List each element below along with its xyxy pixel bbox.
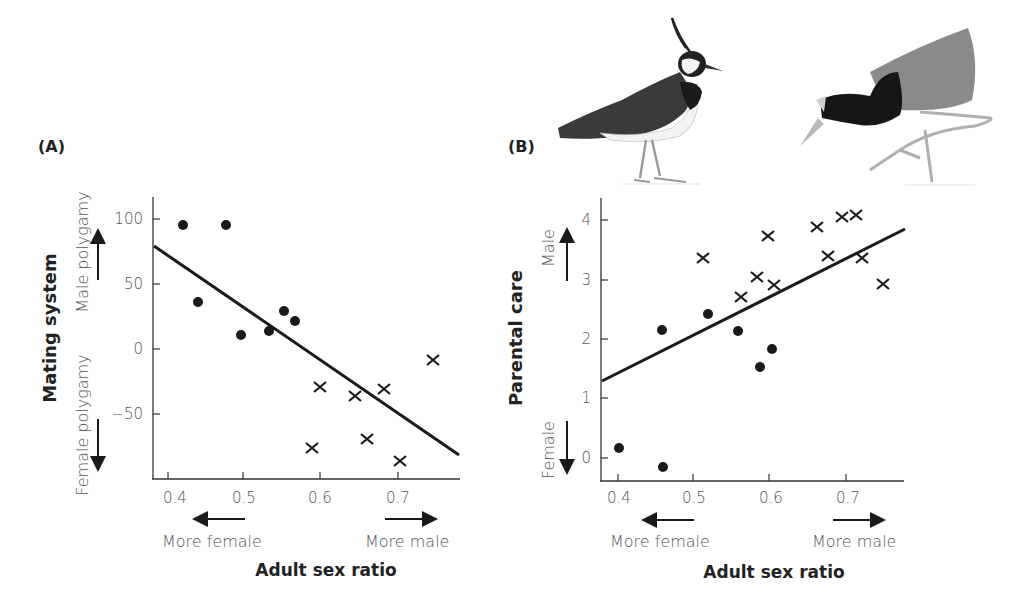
panel-b-x-left-label: More female <box>610 532 710 551</box>
panel-b-xtick: 0.6 <box>759 489 783 507</box>
panel-b-xtick: 0.7 <box>836 489 860 507</box>
panel-b-ytick: 1 <box>581 389 591 407</box>
panel-b-xtick: 0.4 <box>607 489 631 507</box>
panel-b-ylabel: Parental care <box>505 270 526 406</box>
panel-b-ytick: 4 <box>581 211 591 229</box>
figure: (A) 100 50 0 −50 0.4 0.5 0.6 0.7 <box>0 0 1021 609</box>
panel-b-ytick: 3 <box>581 271 591 289</box>
panel-a-y-down-label: Female polygamy <box>73 354 92 495</box>
panel-a-ylabel: Mating system <box>39 253 60 403</box>
panel-a-dots <box>178 220 300 340</box>
panel-a-xtick: 0.7 <box>386 489 410 507</box>
panel-a-ytick: 50 <box>124 275 143 293</box>
panel-a-fit-line <box>154 246 459 455</box>
panel-b-crosses <box>697 210 889 302</box>
panel-a-y-up-label: Male polygamy <box>73 191 92 312</box>
panel-a-ytick: 100 <box>114 210 143 228</box>
panel-b-y-up-label: Male <box>539 229 558 267</box>
panel-b-xlabel: Adult sex ratio <box>703 562 844 582</box>
panel-a-ytick: 0 <box>133 340 143 358</box>
panel-b-ytick: 2 <box>581 330 591 348</box>
panel-b-fit-line <box>602 229 905 381</box>
panel-a-xtick: 0.4 <box>163 489 187 507</box>
panel-b-y-down-label: Female <box>539 421 558 479</box>
jacana-illustration <box>800 28 991 185</box>
panel-a-xlabel: Adult sex ratio <box>255 560 396 580</box>
panel-a-xtick: 0.6 <box>308 489 332 507</box>
lapwing-illustration <box>558 18 723 184</box>
panel-a-x-right-label: More male <box>365 532 449 551</box>
panel-b-ytick: 0 <box>581 449 591 467</box>
panel-b-x-right-label: More male <box>812 532 896 551</box>
panel-b-label: (B) <box>508 137 535 156</box>
panel-b-xtick: 0.5 <box>682 489 706 507</box>
panel-a-crosses <box>306 355 439 466</box>
panel-a-label: (A) <box>38 137 65 156</box>
panel-a-xtick: 0.5 <box>232 489 256 507</box>
panel-a-ytick: −50 <box>111 405 143 423</box>
panel-a-x-left-label: More female <box>162 532 262 551</box>
